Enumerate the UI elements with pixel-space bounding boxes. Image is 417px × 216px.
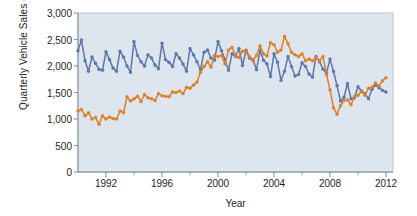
series-marker-blue-series: [294, 75, 297, 78]
series-marker-blue-series: [273, 52, 276, 55]
series-marker-blue-series: [266, 62, 269, 65]
series-marker-blue-series: [157, 67, 160, 70]
series-marker-blue-series: [189, 47, 192, 50]
series-marker-blue-series: [322, 68, 325, 71]
series-marker-orange-series: [91, 118, 94, 121]
series-marker-blue-series: [346, 82, 349, 85]
series-marker-orange-series: [325, 73, 328, 76]
series-marker-orange-series: [213, 54, 216, 57]
series-marker-orange-series: [133, 97, 136, 100]
series-marker-orange-series: [238, 56, 241, 59]
series-marker-blue-series: [220, 49, 223, 52]
series-marker-orange-series: [311, 59, 314, 62]
series-marker-orange-series: [350, 103, 353, 106]
series-marker-blue-series: [196, 60, 199, 63]
series-marker-blue-series: [129, 71, 132, 74]
series-marker-blue-series: [105, 50, 108, 53]
series-marker-orange-series: [203, 65, 206, 68]
series-marker-orange-series: [318, 59, 321, 62]
series-marker-blue-series: [150, 57, 153, 60]
series-marker-orange-series: [231, 46, 234, 49]
series-marker-orange-series: [147, 96, 150, 99]
series-marker-blue-series: [77, 49, 80, 52]
series-marker-orange-series: [143, 93, 146, 96]
series-marker-blue-series: [94, 62, 97, 65]
series-marker-blue-series: [185, 70, 188, 73]
series-marker-blue-series: [311, 76, 314, 79]
series-marker-blue-series: [84, 59, 87, 62]
series-marker-orange-series: [84, 114, 87, 117]
series-marker-blue-series: [339, 99, 342, 102]
series-marker-orange-series: [224, 62, 227, 65]
series-marker-orange-series: [108, 115, 111, 118]
series-marker-blue-series: [203, 51, 206, 54]
series-marker-blue-series: [231, 52, 234, 55]
series-marker-orange-series: [126, 95, 129, 98]
series-marker-blue-series: [182, 62, 185, 65]
series-marker-orange-series: [343, 99, 346, 102]
series-marker-orange-series: [360, 90, 363, 93]
series-marker-blue-series: [210, 57, 213, 60]
series-marker-blue-series: [385, 90, 388, 93]
series-marker-orange-series: [357, 94, 360, 97]
series-marker-orange-series: [206, 60, 209, 63]
series-marker-orange-series: [185, 86, 188, 89]
series-marker-blue-series: [343, 96, 346, 99]
series-marker-blue-series: [112, 67, 115, 70]
series-marker-orange-series: [175, 91, 178, 94]
series-marker-blue-series: [119, 50, 122, 53]
series-marker-blue-series: [329, 58, 332, 61]
series-marker-orange-series: [378, 85, 381, 88]
series-marker-blue-series: [241, 64, 244, 67]
series-marker-blue-series: [178, 57, 181, 60]
series-marker-orange-series: [161, 94, 164, 97]
series-marker-blue-series: [350, 97, 353, 100]
series-marker-blue-series: [175, 52, 178, 55]
series-marker-blue-series: [126, 65, 129, 68]
series-marker-orange-series: [178, 89, 181, 92]
series-marker-blue-series: [206, 49, 209, 52]
series-marker-orange-series: [189, 87, 192, 90]
series-marker-orange-series: [329, 88, 332, 91]
series-marker-blue-series: [276, 61, 279, 64]
series-marker-orange-series: [371, 86, 374, 89]
series-marker-blue-series: [108, 58, 111, 61]
series-marker-blue-series: [143, 65, 146, 68]
series-marker-orange-series: [171, 90, 174, 93]
series-marker-orange-series: [122, 111, 125, 114]
series-marker-orange-series: [266, 54, 269, 57]
series-marker-orange-series: [129, 99, 132, 102]
series-marker-blue-series: [304, 65, 307, 68]
series-marker-orange-series: [164, 95, 167, 98]
series-marker-orange-series: [196, 80, 199, 83]
series-marker-orange-series: [140, 100, 143, 103]
series-marker-blue-series: [171, 65, 174, 68]
series-marker-orange-series: [322, 55, 325, 58]
series-marker-orange-series: [269, 41, 272, 44]
series-marker-orange-series: [248, 55, 251, 58]
series-marker-orange-series: [276, 51, 279, 54]
series-marker-orange-series: [273, 43, 276, 46]
series-marker-orange-series: [304, 59, 307, 62]
series-marker-orange-series: [217, 55, 220, 58]
series-marker-orange-series: [332, 106, 335, 109]
series-marker-blue-series: [283, 70, 286, 73]
series-marker-orange-series: [308, 58, 311, 61]
series-marker-orange-series: [94, 116, 97, 119]
series-marker-blue-series: [269, 75, 272, 78]
series-marker-blue-series: [91, 55, 94, 58]
series-marker-orange-series: [157, 92, 160, 95]
series-marker-orange-series: [381, 79, 384, 82]
series-marker-orange-series: [315, 56, 318, 59]
series-marker-orange-series: [290, 51, 293, 54]
series-marker-orange-series: [287, 42, 290, 45]
series-marker-orange-series: [87, 111, 90, 114]
series-marker-blue-series: [147, 53, 150, 56]
series-marker-blue-series: [101, 69, 104, 72]
series-marker-orange-series: [112, 117, 115, 120]
series-marker-blue-series: [115, 70, 118, 73]
series-marker-blue-series: [280, 79, 283, 82]
series-marker-blue-series: [290, 65, 293, 68]
series-marker-orange-series: [245, 49, 248, 52]
chart-figure: Quarterly Vehicle Sales (000) Year 05001…: [0, 0, 417, 216]
